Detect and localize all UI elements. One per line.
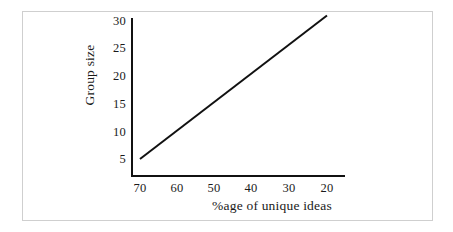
- y-axis-line: [131, 18, 133, 177]
- x-axis-tick-labels: 70 60 50 40 30 20: [0, 181, 453, 197]
- x-tick-label: 60: [162, 181, 192, 195]
- y-tick-label: 5: [100, 153, 126, 165]
- x-tick-label: 50: [199, 181, 229, 195]
- y-axis-tick-labels: 30 25 20 15 10 5: [99, 0, 126, 232]
- plot-area: 30 25 20 15 10 5 70 60 50 40 30 20 Group…: [0, 0, 453, 232]
- x-tick-label: 30: [274, 181, 304, 195]
- y-axis-title: Group size: [82, 45, 98, 106]
- y-tick-label: 30: [100, 15, 126, 27]
- y-tick-label: 15: [100, 98, 126, 110]
- y-tick-label: 10: [100, 126, 126, 138]
- x-tick-label: 20: [312, 181, 342, 195]
- x-axis-title: %age of unique ideas: [212, 198, 332, 214]
- chart-figure: 30 25 20 15 10 5 70 60 50 40 30 20 Group…: [0, 0, 453, 232]
- series-line: [140, 15, 327, 159]
- x-tick-label: 70: [125, 181, 155, 195]
- x-axis-line: [131, 175, 345, 177]
- y-tick-label: 20: [100, 70, 126, 82]
- x-tick-label: 40: [236, 181, 266, 195]
- y-tick-label: 25: [100, 42, 126, 54]
